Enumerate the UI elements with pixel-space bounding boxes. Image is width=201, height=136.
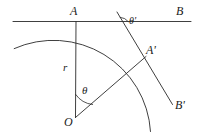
label-angle-theta-prime: θ'	[129, 16, 136, 26]
radius-OA	[76, 22, 77, 118]
label-point-a-prime: A'	[146, 44, 156, 56]
figure-canvas	[0, 0, 201, 136]
angle-arc-theta	[76, 95, 93, 105]
geometry-figure: A B A' B' O r θ θ'	[0, 0, 201, 136]
label-point-o: O	[64, 116, 73, 128]
line-ApBp	[117, 12, 173, 105]
label-point-a: A	[70, 5, 77, 17]
label-point-b: B	[176, 5, 183, 17]
label-angle-theta: θ	[82, 85, 87, 96]
label-radius-r: r	[63, 62, 67, 73]
label-point-b-prime: B'	[175, 99, 185, 111]
